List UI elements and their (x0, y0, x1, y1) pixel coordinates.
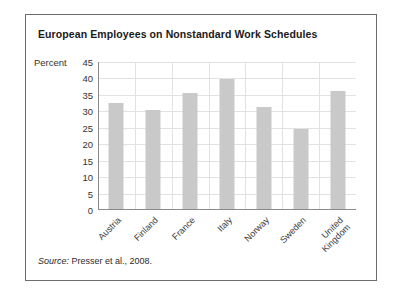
figure-panel: European Employees on Nonstandard Work S… (25, 14, 377, 281)
bar (183, 93, 198, 210)
y-axis-tick-label: 5 (88, 188, 93, 199)
bar-band: Finland (135, 62, 172, 210)
bar-band: Sweden (282, 62, 319, 210)
y-axis-tick-label: 25 (82, 122, 93, 133)
x-axis-tick-label: Austria (97, 215, 124, 242)
bar-band: Italy (209, 62, 246, 210)
y-axis-tick-label: 30 (82, 106, 93, 117)
y-axis-tick-label: 20 (82, 139, 93, 150)
bar-band: UnitedKingdom (319, 62, 356, 210)
y-axis-tick-label: 0 (88, 205, 93, 216)
y-axis-line (98, 62, 99, 210)
bar (256, 107, 271, 210)
x-axis-line (98, 209, 356, 211)
y-axis-tick-label: 40 (82, 73, 93, 84)
bar (146, 110, 161, 210)
bar (219, 79, 234, 210)
y-axis-tick-label: 45 (82, 57, 93, 68)
x-axis-tick-label: Finland (132, 215, 160, 243)
y-axis-tick-label: 15 (82, 155, 93, 166)
x-axis-tick-label: UnitedKingdom (312, 215, 351, 254)
bar (109, 103, 124, 210)
plot-inner: AustriaFinlandFranceItalyNorwaySwedenUni… (98, 62, 356, 210)
x-axis-tick-label: Italy (215, 215, 234, 234)
plot-area: AustriaFinlandFranceItalyNorwaySwedenUni… (98, 62, 356, 210)
bar-band: Norway (245, 62, 282, 210)
source-label: Source: (38, 256, 69, 266)
bar-band: Austria (98, 62, 135, 210)
bar (330, 91, 345, 210)
y-axis-tick-label: 10 (82, 172, 93, 183)
source-note: Source: Presser et al., 2008. (38, 256, 152, 266)
source-citation: Presser et al., 2008. (69, 256, 152, 266)
y-axis-unit-label: Percent (34, 57, 67, 68)
x-axis-tick-label: Sweden (278, 215, 308, 245)
y-axis-tick-label: 35 (82, 89, 93, 100)
bar-band: France (172, 62, 209, 210)
x-axis-tick-label: France (170, 215, 197, 242)
bar (293, 129, 308, 210)
chart-title: European Employees on Nonstandard Work S… (38, 28, 317, 40)
x-axis-tick-label: Norway (242, 215, 271, 244)
